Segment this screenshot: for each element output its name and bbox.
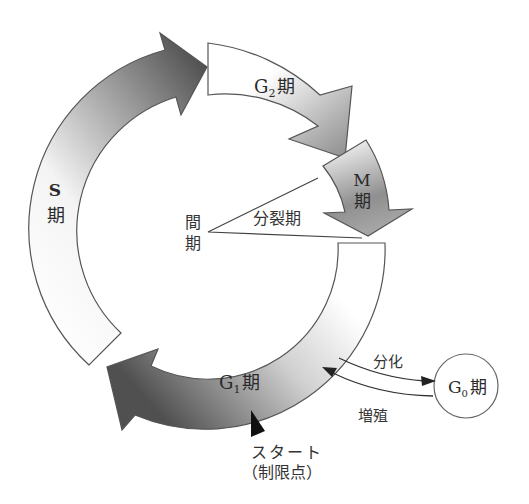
checkpoint-label-line1: スタート — [251, 443, 323, 462]
mitotic-phase-label: 分裂期 — [253, 209, 301, 228]
proliferation-label: 増殖 — [358, 407, 388, 425]
cell-cycle-diagram: S 期 G2期 M 期 G1期 間 期 分裂期 G0期 分化 増殖 スタート （… — [0, 0, 529, 504]
proliferation-arrow — [322, 367, 433, 396]
differentiation-label: 分化 — [373, 353, 403, 371]
checkpoint-label-line2: （制限点） — [242, 463, 322, 482]
g1-phase-arrow — [107, 243, 385, 430]
interphase-label-line2: 期 — [185, 234, 201, 253]
s-phase-kanji: 期 — [47, 205, 65, 226]
m-phase-label: M — [353, 170, 370, 190]
m-phase-kanji: 期 — [354, 191, 371, 211]
s-phase-label: S — [49, 180, 61, 200]
g2-phase-arrow — [208, 43, 352, 158]
g0-phase-circle — [434, 354, 498, 418]
interphase-label-line1: 間 — [185, 213, 201, 232]
